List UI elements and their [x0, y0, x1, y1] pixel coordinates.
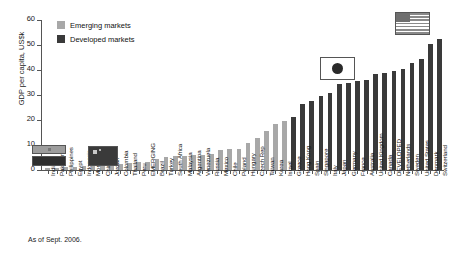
y-axis-label: GDP per capita, US$k [17, 0, 26, 139]
x-axis-label: United States [424, 140, 431, 176]
japan-flag-disc [332, 63, 343, 74]
x-axis-label: Netherlands [405, 144, 412, 176]
x-axis-label: Mexico [223, 157, 230, 176]
us-flag-canton [396, 13, 410, 22]
y-tick-label: 60 [27, 15, 35, 23]
x-axis-label: Philippines [68, 147, 75, 176]
legend: Emerging markets Developed markets [57, 19, 135, 47]
bar [337, 84, 342, 170]
x-axis-label: Taiwan [269, 157, 276, 176]
y-tick-mark [37, 95, 41, 96]
y-tick-mark [37, 45, 41, 46]
x-axis-label: Malaysia [187, 152, 194, 176]
x-axis-labels: IndiaPakistanPhilippinesEgyptIndonesiaMo… [43, 176, 444, 236]
japan-flag-icon [320, 57, 355, 80]
x-axis-label: EMERGING [150, 143, 157, 176]
china-flag-icon [88, 146, 118, 166]
y-tick-label: 40 [27, 65, 35, 73]
china-flag-small-star [99, 149, 101, 151]
x-axis-label: Hong Kong [305, 146, 312, 176]
x-axis-label: South Africa [177, 144, 184, 176]
legend-label-emerging: Emerging markets [70, 21, 131, 30]
y-tick-mark [37, 170, 41, 171]
x-axis-label: France [360, 157, 367, 176]
x-axis-label: Spain [314, 161, 321, 176]
y-tick-mark [37, 70, 41, 71]
x-axis-label: Poland [241, 157, 248, 176]
x-axis-label: United Kingdom [378, 133, 385, 176]
x-axis-label: Peru [141, 163, 148, 176]
x-axis-label: Venezuela [205, 148, 212, 176]
x-axis-label: Czech Rep [259, 146, 266, 176]
x-axis-label: Greece [296, 156, 303, 176]
x-axis-label: Italy [332, 165, 339, 176]
footnote: As of Sept. 2006. [28, 236, 82, 243]
legend-label-developed: Developed markets [70, 35, 135, 44]
x-axis-label: Korea [278, 160, 285, 176]
y-tick-label: 50 [27, 40, 35, 48]
china-flag-star [93, 150, 97, 154]
y-tick-mark [37, 120, 41, 121]
x-axis-label: Turkey [168, 158, 175, 176]
x-axis-label: Colombia [123, 151, 130, 176]
x-axis-label: Egypt [77, 161, 84, 176]
x-axis-label: Australia [369, 153, 376, 176]
x-axis-label: Sweden [414, 154, 421, 176]
united-states-flag-icon [395, 12, 430, 35]
y-tick-label: 30 [27, 90, 35, 98]
x-axis-label: Chile [232, 162, 239, 176]
x-axis-label: Argentina [196, 150, 203, 176]
x-axis-label: Denmark [433, 152, 440, 176]
secondary-flag-icon [32, 156, 66, 166]
x-axis-label: Canada [387, 155, 394, 176]
x-axis-label: Russia [214, 158, 221, 176]
legend-swatch-emerging-icon [57, 21, 65, 29]
india-flag-chakra [48, 148, 51, 151]
x-axis-label: Germany [351, 151, 358, 176]
x-axis-label: Switzerland [442, 145, 449, 176]
legend-item-emerging: Emerging markets [57, 19, 135, 31]
x-axis-label: Singapore [323, 149, 330, 176]
india-flag-icon [32, 145, 66, 154]
legend-item-developed: Developed markets [57, 33, 135, 45]
gdp-per-capita-bar-chart: 0102030405060 GDP per capita, US$k India… [0, 0, 450, 260]
x-axis-label: Japan [341, 160, 348, 176]
x-axis-label: Thailand [132, 153, 139, 176]
x-axis-label: DEVELOPED [396, 139, 403, 176]
x-axis-label: Israel [287, 161, 294, 176]
x-axis-label: Hungary [250, 153, 257, 176]
y-tick-mark [37, 20, 41, 21]
legend-swatch-developed-icon [57, 35, 65, 43]
x-axis-label: Brazil [159, 161, 166, 176]
y-tick-label: 20 [27, 115, 35, 123]
